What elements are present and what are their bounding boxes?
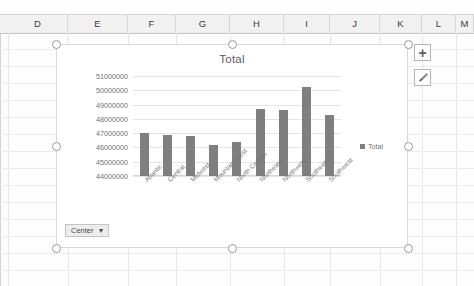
- excel-worksheet: DEFGHIJKLM Total 51000000500000004900000…: [0, 0, 474, 286]
- resize-handle[interactable]: [52, 244, 61, 253]
- column-header-h[interactable]: H: [230, 15, 284, 33]
- chart-legend[interactable]: Total: [360, 142, 383, 151]
- bar-atlantic[interactable]: [140, 133, 149, 176]
- column-header-g[interactable]: G: [176, 15, 230, 33]
- chart-styles-button[interactable]: [414, 69, 431, 86]
- grid-left-edge: [0, 14, 1, 286]
- resize-handle[interactable]: [52, 40, 61, 49]
- resize-handle[interactable]: [404, 142, 413, 151]
- legend-swatch-icon: [360, 144, 365, 149]
- resize-handle[interactable]: [404, 40, 413, 49]
- legend-entry-total: Total: [368, 142, 383, 151]
- chart-title[interactable]: Total: [57, 53, 407, 65]
- column-header-e[interactable]: E: [68, 15, 128, 33]
- resize-handle[interactable]: [228, 40, 237, 49]
- chart-elements-button[interactable]: +: [414, 44, 431, 61]
- column-header-row: DEFGHIJKLM: [0, 14, 474, 34]
- grid-hline: [0, 270, 474, 271]
- column-header-k[interactable]: K: [380, 15, 422, 33]
- grid-hline: [0, 253, 474, 254]
- y-axis-tick-label: 46000000: [96, 143, 128, 152]
- column-header-f[interactable]: F: [128, 15, 176, 33]
- y-axis-tick-label: 44000000: [96, 172, 128, 181]
- bar-cell: [156, 76, 179, 176]
- y-axis-tick-label: 50000000: [96, 86, 128, 95]
- grid-vline: [8, 32, 9, 286]
- alignment-dropdown-label: Center: [71, 226, 94, 235]
- chevron-down-icon: ▾: [99, 227, 103, 235]
- paintbrush-icon: [417, 72, 429, 84]
- bar-midwest[interactable]: [186, 136, 195, 176]
- bar-central[interactable]: [163, 135, 172, 176]
- column-header-d[interactable]: D: [8, 15, 68, 33]
- bar-cell: [179, 76, 202, 176]
- resize-handle[interactable]: [52, 142, 61, 151]
- column-header-m[interactable]: M: [456, 15, 474, 33]
- resize-handle[interactable]: [228, 244, 237, 253]
- y-axis-tick-label: 49000000: [96, 100, 128, 109]
- plus-icon: +: [418, 46, 426, 60]
- alignment-dropdown[interactable]: Center ▾: [65, 224, 109, 237]
- y-axis-tick-label: 51000000: [96, 72, 128, 81]
- bar-cell: [133, 76, 156, 176]
- column-header-i[interactable]: I: [284, 15, 330, 33]
- bar-northwest[interactable]: [279, 110, 288, 176]
- chart-object[interactable]: Total 5100000050000000490000004800000047…: [56, 44, 408, 248]
- y-axis-tick-label: 47000000: [96, 129, 128, 138]
- resize-handle[interactable]: [404, 244, 413, 253]
- column-header-l[interactable]: L: [422, 15, 456, 33]
- grid-vline: [456, 32, 457, 286]
- category-axis-labels[interactable]: AtlanticCentralMidwestMountain WestNorth…: [133, 178, 341, 226]
- bar-southwest[interactable]: [325, 115, 334, 176]
- y-axis-tick-label: 45000000: [96, 157, 128, 166]
- grid-hline: [0, 32, 474, 33]
- y-axis-tick-label: 48000000: [96, 114, 128, 123]
- column-header-j[interactable]: J: [330, 15, 380, 33]
